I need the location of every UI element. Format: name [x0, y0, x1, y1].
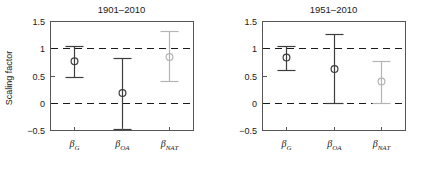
- y-tick-label: −0.5: [239, 126, 257, 136]
- figure-background: [0, 0, 425, 174]
- y-tick-label: 1: [40, 44, 45, 54]
- y-tick-label: 1.5: [32, 17, 45, 27]
- y-tick-label: −0.5: [27, 126, 45, 136]
- panel-title: 1951–2010: [310, 4, 358, 15]
- scaling-factor-figure: Scaling factor 1901–2010−0.500.511.5βGβO…: [0, 0, 425, 174]
- panel-title: 1901–2010: [98, 4, 146, 15]
- y-axis-title: Scaling factor: [4, 51, 14, 106]
- y-tick-label: 0.5: [244, 72, 257, 82]
- y-tick-label: 0: [252, 99, 257, 109]
- y-tick-label: 1.5: [244, 17, 257, 27]
- y-tick-label: 0.5: [32, 72, 45, 82]
- y-tick-label: 1: [252, 44, 257, 54]
- y-tick-label: 0: [40, 99, 45, 109]
